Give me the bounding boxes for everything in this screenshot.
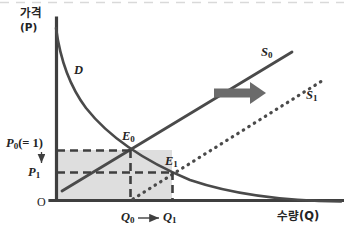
supply1-letter: S xyxy=(306,88,313,102)
equilibrium1-subscript: 1 xyxy=(173,159,178,169)
quantity1-subscript: 1 xyxy=(172,215,177,225)
supply-shift-arrow xyxy=(214,82,266,104)
y-axis-title-main: 가격 xyxy=(20,6,42,20)
figure-canvas xyxy=(0,0,344,233)
price1-label: P1 xyxy=(28,166,40,180)
equilibrium1-label: E1 xyxy=(165,155,178,169)
quantity0-subscript: 0 xyxy=(130,215,135,225)
price0-value: (= 1) xyxy=(18,136,43,150)
price0-label: P0(= 1) xyxy=(6,137,43,151)
y-axis-title-unit: (P) xyxy=(20,22,42,33)
quantity0-label: Q0 xyxy=(121,211,135,225)
quantity1-label: Q1 xyxy=(163,211,177,225)
y-axis-title: 가격 (P) xyxy=(20,8,42,32)
equilibrium0-label: E0 xyxy=(122,130,135,144)
supply0-curve-label: S0 xyxy=(261,46,272,60)
x-axis-title: 수량(Q) xyxy=(277,211,319,223)
price1-subscript: 1 xyxy=(36,170,41,180)
origin-label: O xyxy=(37,196,46,208)
quantity0-letter: Q xyxy=(121,210,130,224)
quantity1-letter: Q xyxy=(163,210,172,224)
supply1-curve-label: S1 xyxy=(306,89,317,103)
supply-demand-figure: 가격 (P) 수량(Q) D S0 S1 E0 E1 P0(= 1) P1 O … xyxy=(0,0,344,233)
price0-letter: P xyxy=(6,136,14,150)
price1-letter: P xyxy=(28,165,36,179)
supply1-subscript: 1 xyxy=(313,93,318,103)
equilibrium0-subscript: 0 xyxy=(130,134,135,144)
supply0-letter: S xyxy=(261,45,268,59)
supply0-subscript: 0 xyxy=(268,50,273,60)
shaded-revenue-rectangle xyxy=(57,150,172,200)
demand-curve-label: D xyxy=(74,64,83,77)
